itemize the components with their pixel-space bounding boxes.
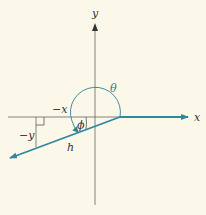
h-label: h xyxy=(67,141,74,154)
theta-label: θ xyxy=(110,82,117,95)
phi-label: ϕ xyxy=(77,119,85,132)
phi-arc xyxy=(86,117,87,129)
diagram-canvas: y x θ ϕ −x −y h xyxy=(0,0,206,215)
neg-y-label: −y xyxy=(19,129,35,142)
neg-x-label: −x xyxy=(52,103,68,116)
y-axis-arrow-icon xyxy=(92,23,98,31)
right-angle-marker xyxy=(36,117,44,125)
y-axis-label: y xyxy=(91,7,99,20)
vector-diagram: y x θ ϕ −x −y h xyxy=(0,0,206,215)
x-axis-label: x xyxy=(194,111,201,124)
